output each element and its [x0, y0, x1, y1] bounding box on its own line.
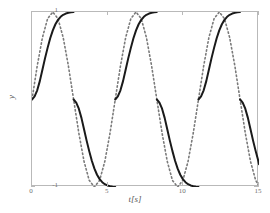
plot-svg — [32, 12, 259, 187]
plot-frame — [31, 11, 258, 186]
x-tick-mark — [107, 182, 108, 186]
x-tick-mark — [182, 182, 183, 186]
x-tick-mark — [107, 11, 108, 15]
series-sine-reference — [32, 12, 259, 187]
series-saturating-response — [32, 12, 259, 187]
x-tick-mark — [182, 11, 183, 15]
x-axis-label: t[s] — [0, 194, 270, 204]
x-tick-mark — [258, 11, 259, 15]
x-tick-mark — [258, 182, 259, 186]
figure-canvas: -11 051015 t[s] y — [0, 0, 270, 213]
y-tick-label: 1 — [32, 6, 58, 14]
y-axis-label: y — [6, 95, 16, 99]
